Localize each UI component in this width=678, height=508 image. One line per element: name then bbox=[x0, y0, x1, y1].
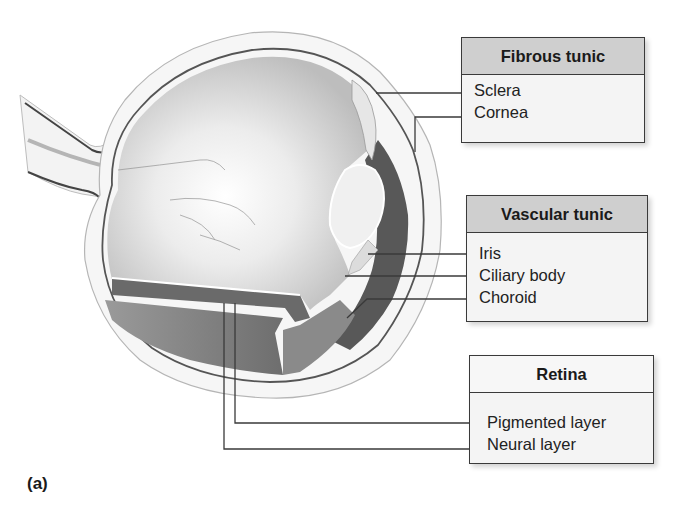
label-iris: Iris bbox=[479, 242, 647, 264]
label-choroid: Choroid bbox=[479, 286, 647, 308]
label-neural-layer: Neural layer bbox=[487, 433, 653, 455]
fibrous-tunic-title: Fibrous tunic bbox=[462, 38, 644, 75]
label-cornea: Cornea bbox=[474, 101, 644, 123]
label-ciliary-body: Ciliary body bbox=[479, 264, 647, 286]
retina-title: Retina bbox=[470, 356, 653, 393]
vascular-tunic-title: Vascular tunic bbox=[467, 196, 647, 233]
vascular-tunic-box: Vascular tunic Iris Ciliary body Choroid bbox=[466, 195, 648, 322]
figure-label: (a) bbox=[27, 474, 48, 494]
retina-box: Retina Pigmented layer Neural layer bbox=[469, 355, 654, 464]
fibrous-tunic-box: Fibrous tunic Sclera Cornea bbox=[461, 37, 645, 143]
label-sclera: Sclera bbox=[474, 79, 644, 101]
label-pigmented-layer: Pigmented layer bbox=[487, 411, 653, 433]
